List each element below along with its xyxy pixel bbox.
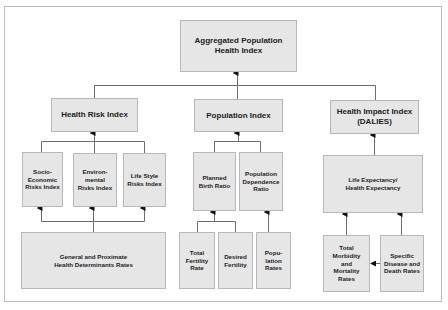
- life-expectancy-health-expectancy-box: Life Expectancy/ Health Expectancy: [323, 155, 423, 213]
- box-label: Population Dependence Ratio: [243, 170, 280, 193]
- box-label: Planned Birth Ratio: [199, 174, 231, 190]
- box-label: Life Style Risks Index: [127, 172, 161, 188]
- health-impact-index-box: Health Impact Index (DALIES): [330, 100, 419, 134]
- box-label: Total Morbidity and Mortality Rates: [333, 244, 361, 283]
- box-label: Aggregated Population Health Index: [195, 36, 283, 56]
- box-label: Specific Disease and Death Rates: [384, 252, 420, 275]
- life-style-risks-index-box: Life Style Risks Index: [123, 153, 166, 207]
- total-morbidity-mortality-rates-box: Total Morbidity and Mortality Rates: [323, 235, 370, 292]
- specific-disease-death-rates-box: Specific Disease and Death Rates: [380, 235, 424, 292]
- box-label: Life Expectancy/ Health Expectancy: [345, 176, 400, 192]
- desired-fertility-box: Desired Fertility: [218, 232, 253, 289]
- box-label: Popu- lation Rates: [265, 249, 283, 272]
- box-label: Health Impact Index (DALIES): [337, 107, 413, 127]
- environmental-risks-index-box: Environ- mental Risks Index: [73, 153, 117, 207]
- total-fertility-rate-box: Total Fertility Rate: [179, 232, 215, 289]
- planned-birth-ratio-box: Planned Birth Ratio: [193, 152, 236, 211]
- box-label: Health Risk Index: [61, 110, 128, 120]
- box-label: Total Fertility Rate: [186, 249, 208, 272]
- population-index-box: Population Index: [194, 99, 283, 132]
- health-risk-index-box: Health Risk Index: [51, 98, 138, 132]
- box-label: Population Index: [206, 111, 270, 121]
- box-label: Socio- Economic Risks Index: [25, 168, 59, 191]
- socio-economic-risks-index-box: Socio- Economic Risks Index: [22, 152, 63, 207]
- population-rates-box: Popu- lation Rates: [256, 232, 291, 289]
- population-dependence-ratio-box: Population Dependence Ratio: [239, 152, 283, 211]
- aggregated-population-health-index-box: Aggregated Population Health Index: [180, 20, 297, 72]
- box-label: General and Proximate Health Determinant…: [54, 253, 133, 269]
- box-label: Environ- mental Risks Index: [78, 168, 112, 191]
- box-label: Desired Fertility: [224, 253, 247, 269]
- general-proximate-health-determinants-box: General and Proximate Health Determinant…: [21, 232, 166, 289]
